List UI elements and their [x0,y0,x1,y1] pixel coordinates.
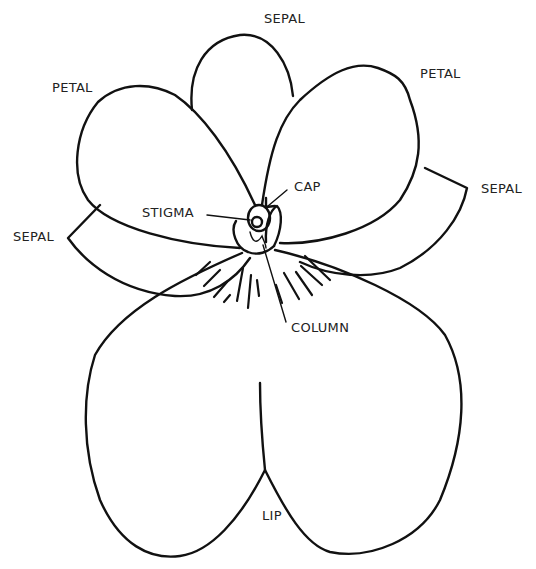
label-sepal-left: SEPAL [13,230,54,243]
label-sepal-right: SEPAL [481,182,522,195]
label-sepal-top: SEPAL [264,12,305,25]
right-sepal-outline [300,168,467,275]
column-pointer [263,245,286,322]
cap-arrowhead [266,198,275,207]
label-cap: CAP [294,180,321,193]
stigma-circle [252,217,262,227]
right-petal-outline [262,66,419,244]
left-petal-outline [77,86,255,248]
label-petal-left: PETAL [52,81,93,94]
top-sepal-outline [191,35,293,110]
label-lip: LIP [262,509,282,522]
lip-groove [260,383,265,470]
label-stigma: STIGMA [142,206,194,219]
label-column: COLUMN [291,321,349,334]
label-petal-right: PETAL [420,67,461,80]
stigma-pointer [207,215,250,220]
cap-arrow [268,190,287,206]
